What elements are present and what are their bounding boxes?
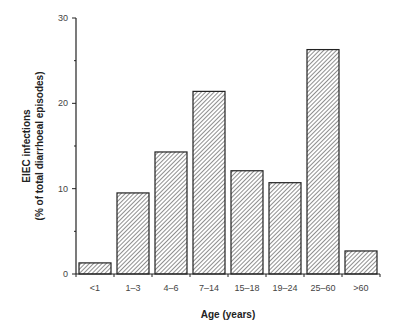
- bar: [269, 183, 301, 274]
- x-tick-labels: <11–34–67–1415–1819–2425–60>60: [90, 283, 369, 293]
- bar: [155, 152, 187, 274]
- bar: [231, 171, 263, 274]
- x-tick-label: 4–6: [163, 283, 178, 293]
- y-axis-title-group: EIEC infections (% of total diarrhoeal e…: [21, 72, 45, 221]
- x-tick-label: 19–24: [272, 283, 297, 293]
- bar: [193, 91, 225, 274]
- y-tick-label: 20: [58, 98, 68, 108]
- x-tick-label: 1–3: [125, 283, 140, 293]
- bar: [307, 50, 339, 274]
- x-tick-label: 15–18: [234, 283, 259, 293]
- bar-chart: <11–34–67–1415–1819–2425–60>60 0102030 A…: [0, 0, 394, 327]
- bar: [117, 193, 149, 274]
- y-tick-label: 30: [58, 13, 68, 23]
- x-tick-label: >60: [353, 283, 368, 293]
- y-axis-subtitle: (% of total diarrhoeal episodes): [34, 72, 45, 221]
- bars-group: [79, 50, 377, 274]
- y-axis-title: EIEC infections: [21, 109, 32, 183]
- y-tick-label: 0: [63, 269, 68, 279]
- bar: [79, 263, 111, 274]
- x-axis-title: Age (years): [201, 309, 255, 320]
- y-tick-labels: 0102030: [58, 13, 68, 279]
- y-tick-label: 10: [58, 184, 68, 194]
- bar: [345, 251, 377, 274]
- x-tick-label: 25–60: [310, 283, 335, 293]
- x-tick-label: <1: [90, 283, 100, 293]
- x-tick-label: 7–14: [199, 283, 219, 293]
